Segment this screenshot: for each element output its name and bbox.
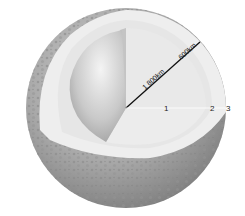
cutaway-sphere-diagram: 1 800km 600km 1 2 3 — [0, 0, 245, 216]
layer-number-3: 3 — [226, 104, 231, 113]
layer-number-1: 1 — [164, 104, 169, 113]
layer-number-2: 2 — [210, 104, 215, 113]
